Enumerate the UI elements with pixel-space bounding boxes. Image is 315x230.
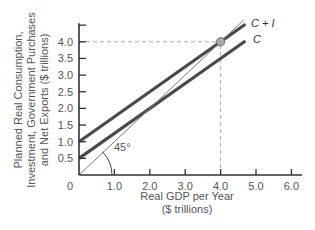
- y-axis-title: Planned Real Consumption,Investment, Gov…: [12, 12, 50, 188]
- y-tick-label: 2.0: [58, 102, 73, 114]
- y-axis-title-line: and Net Exports ($ trillions): [38, 34, 50, 167]
- y-tick-label: 3.0: [58, 69, 73, 81]
- chart-canvas: 1.02.03.04.05.06.000.51.01.52.02.53.03.5…: [0, 0, 315, 230]
- x-tick-label: 6.0: [284, 180, 299, 192]
- y-tick-label: 2.5: [58, 86, 73, 98]
- y-tick-label: 0.5: [58, 152, 73, 164]
- y-axis-title-line: Investment, Government Purchases: [25, 12, 37, 188]
- series-line-c: [79, 41, 245, 158]
- series-label-c-plus-i: C + I: [251, 17, 275, 29]
- y-tick-label: 3.5: [58, 52, 73, 64]
- x-tick-label: 1.0: [107, 180, 122, 192]
- origin-label: 0: [67, 180, 73, 192]
- angle-label: 45°: [114, 141, 131, 153]
- annotations: C + IC45°: [102, 17, 274, 175]
- x-tick-label: 5.0: [248, 180, 263, 192]
- angle-arc: [102, 152, 112, 175]
- equilibrium-point: [216, 38, 224, 46]
- x-axis-title: ($ trillions): [162, 203, 213, 215]
- series-label-c: C: [253, 33, 261, 45]
- y-axis-title-line: Planned Real Consumption,: [12, 32, 24, 169]
- y-tick-label: 1.5: [58, 119, 73, 131]
- y-tick-label: 4.0: [58, 36, 73, 48]
- axes: [79, 23, 302, 175]
- y-tick-label: 1.0: [58, 136, 73, 148]
- x-axis-title: Real GDP per Year: [140, 190, 234, 202]
